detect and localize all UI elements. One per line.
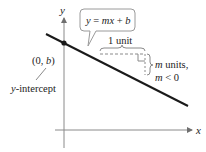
right-angle-marker <box>138 54 145 61</box>
slope-diagram: y x 1 unit m units, m < 0 y = mx + b (0,… <box>0 0 206 152</box>
rise-label-line1: m units, <box>155 59 188 70</box>
y-intercept-point <box>61 40 66 45</box>
x-axis-label: x <box>195 124 201 136</box>
run-label: 1 unit <box>108 35 132 46</box>
rise-label-line2: m < 0 <box>155 72 179 83</box>
point-label-leader <box>36 68 46 80</box>
equation-callout-text: y = mx + b <box>85 15 131 26</box>
y-intercept-label: y-intercept <box>10 83 56 94</box>
y-axis-label: y <box>59 4 65 16</box>
rise-brace <box>147 54 153 75</box>
point-label: (0, b) <box>32 55 55 67</box>
